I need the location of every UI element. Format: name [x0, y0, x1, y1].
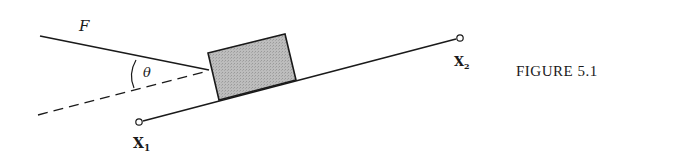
point-x2-marker	[457, 35, 463, 41]
block	[208, 34, 296, 100]
angle-arc	[131, 60, 136, 88]
point-x1-marker	[136, 119, 142, 125]
figure-caption: FIGURE 5.1	[516, 63, 598, 79]
point-x1-label: X1	[133, 135, 150, 153]
incline-line	[143, 39, 456, 121]
angle-label: θ	[143, 65, 151, 80]
force-line	[40, 36, 209, 70]
reference-dashed-line	[38, 71, 208, 115]
diagram-canvas: F θ X1 X2 FIGURE 5.1	[0, 0, 675, 155]
force-label: F	[78, 17, 90, 35]
point-x2-label: X2	[454, 54, 470, 71]
